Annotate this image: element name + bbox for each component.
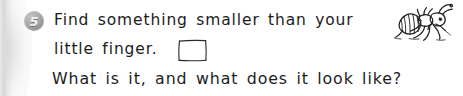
page-edge-shadow: [0, 0, 14, 96]
question-text-line-3: What is it, and what does it look like?: [52, 64, 452, 93]
question-number-badge: 5: [24, 11, 44, 31]
question-text-line-2-label: little finger.: [54, 35, 157, 64]
worksheet-question-card: 5 Find something smaller than your littl…: [0, 0, 463, 96]
answer-box[interactable]: [176, 38, 209, 63]
ant-icon: [381, 1, 455, 43]
question-number-label: 5: [29, 15, 38, 28]
answer-box-outline: [176, 38, 209, 63]
